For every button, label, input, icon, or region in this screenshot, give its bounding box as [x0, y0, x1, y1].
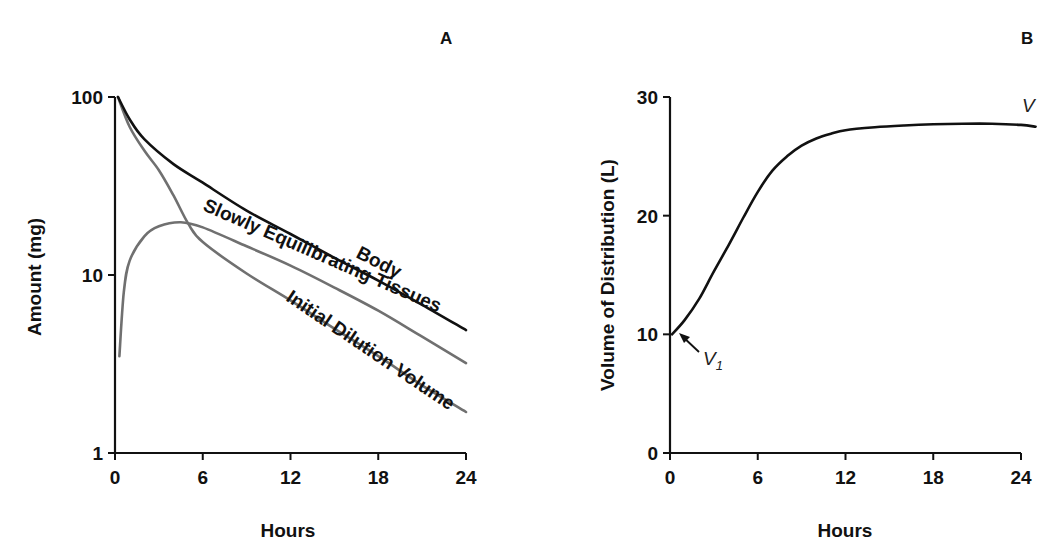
x-tick-label: 12 — [280, 467, 301, 488]
panel-a: A Amount (mg) Hours 06121824110100 Body … — [24, 29, 477, 541]
x-tick-label: 12 — [835, 467, 856, 488]
svg-text:V1: V1 — [703, 348, 723, 373]
x-tick-label: 6 — [752, 467, 763, 488]
panel-b-axes: 061218240102030 — [637, 87, 1032, 488]
curve-volume-of-distribution — [672, 124, 1036, 335]
y-tick-label: 10 — [637, 324, 658, 345]
x-tick-label: 18 — [368, 467, 389, 488]
panel-b: B Volume of Distribution (L) Hours 06121… — [597, 29, 1037, 541]
panel-b-letter: B — [1021, 29, 1033, 48]
y-tick-label: 10 — [82, 265, 103, 286]
panel-b-x-axis-title: Hours — [818, 520, 873, 541]
curve-initial-dilution-volume — [118, 97, 466, 412]
x-tick-label: 0 — [665, 467, 676, 488]
panel-a-axis-lines — [115, 97, 466, 453]
x-tick-label: 6 — [197, 467, 208, 488]
annotation-v1: V1 — [679, 333, 723, 373]
y-tick-label: 30 — [637, 87, 658, 108]
x-tick-label: 18 — [923, 467, 944, 488]
panel-a-x-axis-title: Hours — [261, 520, 316, 541]
x-tick-label: 24 — [455, 467, 477, 488]
y-tick-label: 20 — [637, 206, 658, 227]
curve-label-slowly-equilibrating: Slowly Equilibrating Tissues — [200, 194, 444, 316]
y-tick-label: 1 — [92, 443, 103, 464]
panel-a-y-axis-title: Amount (mg) — [24, 218, 45, 336]
annotation-v1-subscript: 1 — [716, 358, 723, 373]
y-tick-label: 0 — [647, 443, 658, 464]
y-tick-label: 100 — [71, 87, 103, 108]
panel-b-y-axis-title: Volume of Distribution (L) — [597, 159, 618, 391]
panel-a-curves — [118, 97, 466, 412]
figure: A Amount (mg) Hours 06121824110100 Body … — [0, 0, 1061, 557]
panel-a-letter: A — [440, 29, 452, 48]
x-tick-label: 0 — [110, 467, 121, 488]
panel-b-axis-lines — [670, 97, 1021, 453]
annotation-v: V — [1022, 95, 1037, 116]
x-tick-label: 24 — [1010, 467, 1032, 488]
panel-b-curves — [672, 124, 1036, 335]
